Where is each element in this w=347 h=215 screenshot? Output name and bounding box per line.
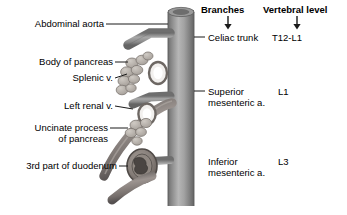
level-celiac-trunk: T12-L1 xyxy=(272,32,302,43)
splenic-vein-cross-section xyxy=(149,62,167,84)
level-inferior-mesenteric: L3 xyxy=(278,156,289,167)
label-uncinate-line2: of pancreas xyxy=(58,133,108,144)
header-arrows xyxy=(224,16,300,30)
level-superior-mesenteric: L1 xyxy=(278,86,289,97)
label-abdominal-aorta: Abdominal aorta xyxy=(0,18,104,29)
branches-down-arrow xyxy=(224,16,231,30)
branch-superior-mesenteric: Superior mesenteric a. xyxy=(208,86,265,108)
branch-superior-mesenteric-line1: Superior xyxy=(208,86,244,97)
branch-celiac-trunk: Celiac trunk xyxy=(208,32,258,43)
branch-superior-mesenteric-line2: mesenteric a. xyxy=(208,97,265,108)
anatomy-figure: Abdominal aorta Body of pancreas Splenic… xyxy=(0,0,347,215)
label-left-renal-vein: Left renal v. xyxy=(0,100,113,111)
label-uncinate-line1: Uncinate process xyxy=(35,122,108,133)
body-of-pancreas xyxy=(116,52,153,95)
label-body-of-pancreas: Body of pancreas xyxy=(0,56,113,67)
branch-inferior-mesenteric-line1: Inferior xyxy=(208,156,238,167)
vertebral-down-arrow xyxy=(293,16,300,30)
branch-inferior-mesenteric-line2: mesenteric a. xyxy=(208,167,265,178)
header-vertebral-level: Vertebral level xyxy=(263,4,327,15)
label-splenic-vein: Splenic v. xyxy=(0,72,113,83)
label-third-part-duodenum: 3rd part of duodenum xyxy=(0,160,117,171)
header-branches: Branches xyxy=(201,4,244,15)
branch-leader-lines xyxy=(194,37,205,91)
branch-inferior-mesenteric: Inferior mesenteric a. xyxy=(208,156,265,178)
celiac-trunk-vessel xyxy=(128,33,170,45)
label-uncinate-process: Uncinate process of pancreas xyxy=(0,122,108,144)
